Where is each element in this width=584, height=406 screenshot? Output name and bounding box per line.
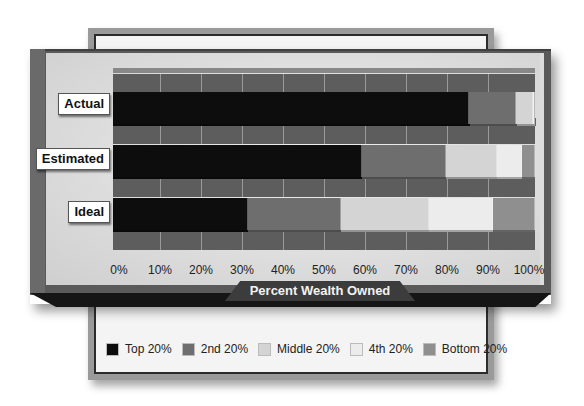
grid-band	[113, 179, 535, 197]
grid-line	[324, 74, 325, 92]
grid-line	[283, 126, 284, 144]
grid-line	[406, 126, 407, 144]
legend-item: 2nd 20%	[182, 342, 248, 356]
chart-panel-side	[30, 49, 45, 293]
x-axis-title: Percent Wealth Owned	[225, 283, 415, 298]
x-tick-label: 10%	[148, 263, 172, 277]
grid-line	[324, 126, 325, 144]
grid-line	[283, 232, 284, 250]
grid-line	[160, 74, 161, 92]
row-label-ideal: Ideal	[68, 201, 110, 223]
grid-line	[242, 232, 243, 250]
grid-line	[488, 126, 489, 144]
legend-label: 4th 20%	[369, 342, 413, 356]
x-tick-label: 100%	[514, 263, 545, 277]
grid-line	[324, 232, 325, 250]
bar-segment	[341, 198, 430, 230]
legend-swatch	[182, 343, 195, 356]
legend-item: Top 20%	[106, 342, 172, 356]
grid-band	[113, 126, 535, 144]
legend-swatch	[423, 343, 436, 356]
bar-segment	[113, 92, 469, 124]
x-tick-label: 80%	[435, 263, 459, 277]
grid-line	[365, 126, 366, 144]
grid-line	[447, 74, 448, 92]
legend-label: Bottom 20%	[442, 342, 507, 356]
grid-line	[201, 179, 202, 197]
grid-line	[160, 126, 161, 144]
bar-segment	[493, 198, 535, 230]
grid-line	[283, 179, 284, 197]
grid-line	[406, 179, 407, 197]
x-tick-label: 90%	[476, 263, 500, 277]
bar-segment	[248, 198, 341, 230]
grid-line	[365, 232, 366, 250]
grid-line	[406, 232, 407, 250]
bar-ideal	[113, 198, 535, 230]
grid-line	[283, 74, 284, 92]
x-tick-label: 50%	[312, 263, 336, 277]
x-tick-label: 30%	[230, 263, 254, 277]
bar-segment	[469, 92, 516, 124]
legend-item: Bottom 20%	[423, 342, 507, 356]
grid-line	[324, 179, 325, 197]
legend-swatch	[350, 343, 363, 356]
grid-line	[201, 126, 202, 144]
grid-band	[113, 74, 535, 92]
bar-segment	[497, 145, 522, 177]
grid-line	[201, 232, 202, 250]
x-tick-label: 40%	[271, 263, 295, 277]
bar-segment	[362, 145, 446, 177]
x-tick-label: 60%	[353, 263, 377, 277]
x-tick-label: 0%	[110, 263, 127, 277]
grid-line	[160, 179, 161, 197]
grid-line	[447, 179, 448, 197]
grid-line	[488, 179, 489, 197]
bar-segment	[113, 198, 248, 230]
legend-swatch	[106, 343, 119, 356]
legend-swatch	[258, 343, 271, 356]
grid-line	[488, 232, 489, 250]
bar-segment	[446, 145, 497, 177]
x-tick-label: 70%	[394, 263, 418, 277]
legend-label: 2nd 20%	[201, 342, 248, 356]
grid-line	[160, 232, 161, 250]
legend-label: Top 20%	[125, 342, 172, 356]
grid-line	[406, 74, 407, 92]
bar-segment	[516, 92, 533, 124]
grid-line	[242, 179, 243, 197]
x-tick-label: 20%	[189, 263, 213, 277]
legend: Top 20%2nd 20%Middle 20%4th 20%Bottom 20…	[106, 342, 517, 356]
grid-band	[113, 232, 535, 250]
legend-label: Middle 20%	[277, 342, 340, 356]
row-label-estimated: Estimated	[36, 148, 110, 170]
bar-segment	[113, 145, 362, 177]
legend-item: 4th 20%	[350, 342, 413, 356]
plot-top-edge	[113, 68, 535, 73]
bar-segment	[429, 198, 492, 230]
bar-segment	[522, 145, 535, 177]
grid-line	[488, 74, 489, 92]
grid-line	[447, 126, 448, 144]
plot-area	[113, 68, 535, 254]
grid-line	[447, 232, 448, 250]
grid-line	[365, 74, 366, 92]
bar-segment	[534, 92, 535, 124]
grid-line	[365, 179, 366, 197]
grid-line	[242, 126, 243, 144]
bar-actual	[113, 92, 535, 124]
grid-line	[242, 74, 243, 92]
bar-estimated	[113, 145, 535, 177]
row-label-actual: Actual	[58, 93, 110, 115]
legend-item: Middle 20%	[258, 342, 340, 356]
grid-line	[201, 74, 202, 92]
